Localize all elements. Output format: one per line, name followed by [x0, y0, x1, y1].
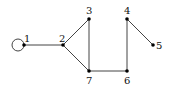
- node-label-7: 7: [86, 75, 92, 86]
- node-label-5: 5: [156, 40, 162, 51]
- node-label-6: 6: [124, 75, 130, 86]
- graph-diagram: 1 2 3 4 5 6 7: [0, 0, 169, 88]
- node-7: [87, 69, 91, 73]
- node-4: [125, 17, 129, 21]
- edge-2-3: [63, 19, 89, 45]
- node-label-1: 1: [24, 33, 30, 44]
- node-5: [151, 43, 155, 47]
- edge-4-5: [127, 19, 153, 45]
- edge-2-7: [63, 45, 89, 71]
- node-label-3: 3: [86, 5, 92, 16]
- node-6: [125, 69, 129, 73]
- node-3: [87, 17, 91, 21]
- node-label-2: 2: [59, 33, 65, 44]
- node-label-4: 4: [124, 5, 130, 16]
